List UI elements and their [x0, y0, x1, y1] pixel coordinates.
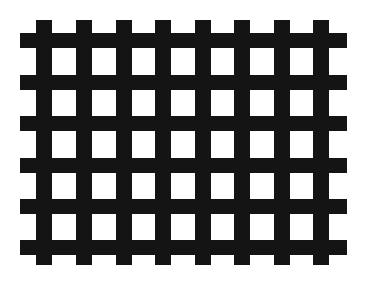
- vertical-bar: [234, 20, 250, 265]
- horizontal-bar: [20, 116, 347, 131]
- horizontal-bar: [20, 199, 347, 214]
- vertical-bar: [313, 20, 329, 265]
- vertical-bar: [76, 20, 92, 265]
- vertical-bar: [274, 20, 290, 265]
- vertical-bar: [36, 20, 52, 265]
- horizontal-bar: [20, 240, 347, 255]
- lattice-grid: [0, 0, 366, 282]
- vertical-bar: [155, 20, 171, 265]
- vertical-bar: [195, 20, 211, 265]
- vertical-bar: [116, 20, 132, 265]
- horizontal-bar: [20, 158, 347, 173]
- horizontal-bar: [20, 75, 347, 90]
- horizontal-bar: [20, 33, 347, 48]
